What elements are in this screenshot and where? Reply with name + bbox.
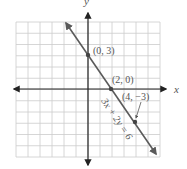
point-label-4-neg3: (4, −3)	[122, 91, 149, 103]
graph: x y (0, 3) (2, 0) (4, −3) 3x + 2y = 6	[0, 0, 187, 169]
point-0-3	[86, 53, 90, 57]
point-label-0-3: (0, 3)	[93, 45, 115, 57]
point-label-2-0: (2, 0)	[112, 74, 134, 86]
x-axis-label: x	[173, 83, 179, 95]
equation-line	[88, 55, 156, 154]
equation-line	[66, 23, 88, 55]
point-2-0	[109, 87, 113, 91]
pointer-arrow	[136, 102, 141, 118]
y-axis-label: y	[83, 0, 89, 7]
point-4-neg3	[133, 120, 137, 124]
